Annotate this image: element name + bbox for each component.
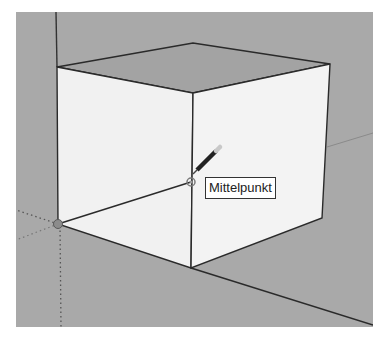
endpoint-marker-icon [54,220,63,229]
inference-dotted-line-left-down [16,224,58,240]
inference-dotted-line-left-up [16,210,58,224]
inference-tooltip: Mittelpunkt [205,177,276,199]
axis-line-right [327,133,373,147]
inference-dotted-line-vertical [60,226,61,327]
cube-left-face[interactable] [57,67,193,268]
midpoint-marker-center [190,181,193,184]
ground-edge-line [191,268,373,325]
axis-line-vertical [56,12,57,67]
sketchup-drawing-area[interactable]: Mittelpunkt [16,12,373,327]
cube-right-face[interactable] [191,64,330,268]
3d-scene[interactable] [16,12,373,327]
